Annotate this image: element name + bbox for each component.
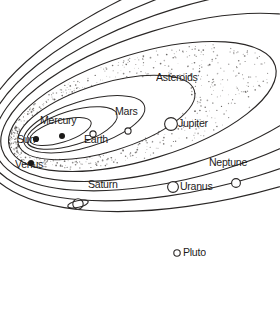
asteroid-dot [134, 68, 135, 69]
asteroid-dot [138, 68, 139, 69]
asteroid-dot [63, 92, 64, 93]
asteroid-dot [217, 73, 218, 74]
asteroid-dot [116, 162, 118, 164]
asteroid-dot [212, 44, 213, 45]
asteroid-dot [191, 94, 193, 96]
asteroid-dot [101, 67, 102, 68]
asteroid-dot [213, 51, 215, 53]
asteroid-dot [211, 48, 212, 49]
asteroid-dot [79, 161, 80, 162]
asteroid-dot [156, 148, 157, 149]
asteroid-dot [61, 95, 63, 97]
asteroid-dot [172, 57, 174, 59]
asteroid-dot [226, 110, 227, 111]
asteroid-dot [257, 81, 258, 82]
asteroid-dot [65, 90, 66, 91]
asteroid-dot [203, 54, 204, 55]
asteroid-dot [193, 98, 194, 99]
asteroid-dot [247, 82, 248, 83]
asteroid-dot [19, 154, 20, 155]
asteroid-dot [212, 85, 213, 86]
asteroid-dot [136, 151, 138, 153]
asteroid-dot [97, 161, 99, 163]
asteroid-dot [61, 92, 62, 93]
asteroid-dot [100, 165, 101, 166]
asteroid-dot [233, 52, 234, 53]
asteroid-dot [186, 51, 187, 52]
asteroid-dot [91, 85, 92, 86]
asteroid-dot [175, 57, 176, 58]
asteroid-dot [60, 164, 61, 165]
asteroid-dot [68, 160, 69, 161]
asteroid-dot [105, 165, 107, 167]
asteroid-dot [211, 84, 212, 85]
asteroid-dot [236, 75, 237, 76]
asteroid-dot [55, 165, 57, 167]
asteroid-dot [220, 67, 222, 69]
asteroid-dot [200, 135, 201, 136]
asteroid-dot [163, 137, 165, 139]
asteroid-dot [189, 46, 190, 47]
asteroid-dot [103, 155, 104, 156]
asteroid-dot [12, 130, 13, 131]
asteroid-dot [222, 125, 223, 126]
asteroid-dot [200, 78, 201, 79]
asteroid-dot [235, 76, 236, 77]
asteroid-dot [120, 153, 121, 154]
asteroid-dot [146, 149, 147, 150]
asteroid-dot [122, 149, 123, 150]
asteroid-dot [203, 135, 204, 136]
asteroid-dot [238, 89, 239, 90]
asteroid-dot [17, 156, 18, 157]
asteroid-dot [15, 127, 16, 128]
asteroid-dot [10, 140, 11, 141]
asteroid-dot [112, 65, 114, 67]
asteroid-dot [194, 48, 196, 50]
asteroid-dot [64, 85, 65, 86]
asteroid-dot [70, 169, 71, 170]
asteroid-dot [248, 76, 250, 78]
asteroid-dot [70, 166, 72, 168]
asteroid-dot [206, 111, 207, 112]
asteroid-dot [233, 50, 234, 51]
asteroid-dot [32, 115, 33, 116]
asteroid-dot [145, 140, 147, 142]
asteroid-dot [13, 142, 15, 144]
asteroid-dot [201, 60, 202, 61]
asteroid-dot [212, 82, 213, 83]
asteroid-dot [12, 138, 13, 139]
asteroid-dot [215, 58, 216, 59]
asteroid-dot [106, 159, 107, 160]
asteroid-dot [106, 163, 107, 164]
asteroid-dot [140, 71, 141, 72]
asteroid-dot [45, 166, 47, 168]
asteroid-dot [194, 133, 195, 134]
asteroid-dot [64, 167, 65, 168]
asteroid-dot [215, 118, 216, 119]
asteroid-dot [113, 161, 114, 162]
asteroid-dot [69, 82, 70, 83]
asteroid-dot [194, 54, 196, 56]
asteroid-dot [16, 154, 17, 155]
asteroid-dot [48, 99, 49, 100]
asteroid-dot [150, 57, 152, 59]
asteroid-dot [20, 121, 21, 122]
asteroid-dot [118, 62, 119, 63]
asteroid-dot [182, 50, 184, 52]
asteroid-dot [163, 143, 165, 145]
asteroid-dot [70, 89, 71, 90]
asteroid-dot [157, 148, 158, 149]
asteroid-dot [197, 113, 198, 114]
asteroid-dot [14, 141, 16, 143]
asteroid-dot [217, 62, 218, 63]
asteroid-dot [56, 162, 58, 164]
asteroid-dot [100, 79, 101, 80]
asteroid-dot [87, 80, 89, 82]
jupiter-marker [165, 118, 178, 131]
asteroid-dot [13, 136, 14, 137]
asteroid-dot [213, 129, 214, 130]
asteroid-dot [152, 141, 154, 143]
venus-orbit [22, 98, 122, 158]
asteroid-dot [193, 135, 194, 136]
asteroid-dot [211, 59, 213, 61]
